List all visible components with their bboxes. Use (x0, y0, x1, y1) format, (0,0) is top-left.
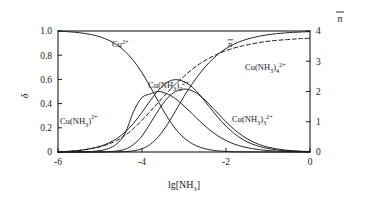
chart-background (0, 0, 369, 202)
label-n-bar: n (228, 39, 232, 49)
right-tick-label: 1 (316, 117, 321, 127)
right-axis-title-text: n (338, 13, 343, 24)
y-tick-label: 0.6 (40, 75, 52, 85)
y-axis-title: δ (19, 93, 30, 98)
right-tick-label: 4 (316, 26, 321, 36)
x-tick-label: -4 (138, 157, 146, 167)
y-tick-label: 0.4 (40, 99, 52, 109)
y-tick-label: 1.0 (40, 26, 52, 36)
right-tick-label: 3 (316, 57, 321, 67)
y-tick-label: 0.8 (40, 51, 52, 61)
x-tick-label: -2 (222, 157, 230, 167)
y-tick-label: 0.2 (40, 123, 52, 133)
right-tick-label: 0 (316, 147, 321, 157)
x-tick-label: -6 (54, 157, 62, 167)
y-tick-label: 0 (47, 147, 52, 157)
chart-figure: -6-4-20 00.20.40.60.81.0 01234 δ n lg[NH… (0, 0, 369, 202)
species-distribution-chart: -6-4-20 00.20.40.60.81.0 01234 δ n lg[NH… (0, 0, 369, 202)
right-tick-label: 2 (316, 87, 321, 97)
x-tick-label: 0 (308, 157, 313, 167)
